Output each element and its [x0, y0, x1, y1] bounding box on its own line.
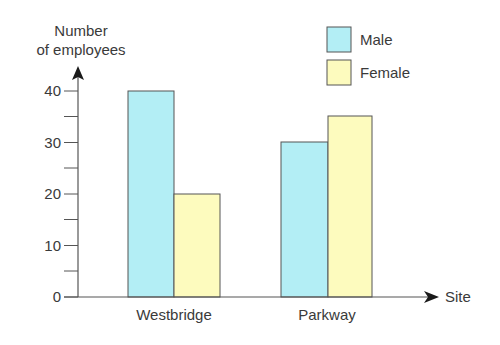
y-tick-10: 10 — [44, 237, 61, 254]
y-axis-label-line1: Number — [54, 22, 107, 39]
x-axis: Site Westbridge Parkway — [64, 288, 471, 323]
bar-westbridge-male — [128, 91, 174, 297]
bar-chart: Number of employees Male Female 0 10 20 — [0, 0, 500, 345]
legend-label-male: Male — [360, 31, 393, 48]
bars — [128, 91, 372, 297]
category-label-westbridge: Westbridge — [136, 306, 212, 323]
bar-parkway-male — [281, 142, 328, 297]
x-axis-label: Site — [445, 288, 471, 305]
bar-parkway-female — [328, 116, 372, 297]
legend-swatch-female — [327, 60, 351, 85]
legend-label-female: Female — [360, 64, 410, 81]
y-tick-30: 30 — [44, 134, 61, 151]
y-tick-20: 20 — [44, 185, 61, 202]
y-axis: 0 10 20 30 40 — [44, 66, 84, 305]
category-label-parkway: Parkway — [298, 306, 356, 323]
y-tick-0: 0 — [53, 288, 61, 305]
legend: Male Female — [327, 27, 410, 85]
legend-swatch-male — [327, 27, 351, 52]
y-axis-label-line2: of employees — [36, 41, 125, 58]
y-tick-40: 40 — [44, 82, 61, 99]
bar-westbridge-female — [174, 194, 220, 297]
